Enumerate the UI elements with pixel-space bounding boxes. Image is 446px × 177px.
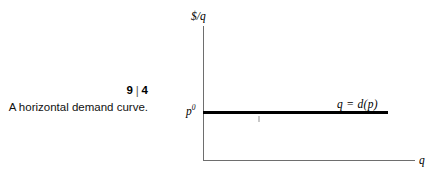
price-level-label: p0 <box>186 105 196 117</box>
plot-area: $/q p0 q = d(p) q <box>0 0 446 177</box>
y-axis-label: $/q <box>191 10 206 22</box>
demand-curve-line <box>203 111 388 114</box>
figure-container: 9|4 A horizontal demand curve. $/q p0 q … <box>0 0 446 177</box>
x-axis-label: q <box>419 154 425 166</box>
x-axis-line <box>203 160 415 161</box>
scan-artifact-mark <box>258 116 260 122</box>
y-axis-line <box>203 26 204 161</box>
demand-curve-label: q = d(p) <box>337 98 378 110</box>
price-level-superscript: 0 <box>192 103 196 112</box>
